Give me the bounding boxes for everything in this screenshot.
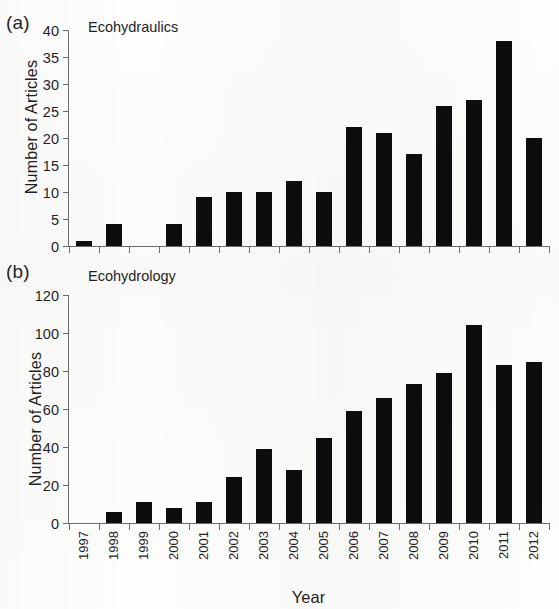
x-axis-tick-label: 2009 bbox=[437, 531, 450, 560]
x-axis-tick-label: 2011 bbox=[497, 531, 510, 559]
bar bbox=[406, 384, 423, 523]
y-axis-tick-label: 15 bbox=[43, 159, 59, 174]
x-axis-tick-label: 1999 bbox=[137, 531, 150, 560]
x-axis-tick-label: 2003 bbox=[257, 531, 270, 560]
panel-a-letter: (a) bbox=[6, 12, 30, 34]
y-axis-tick: 40 bbox=[63, 30, 69, 31]
x-axis-tick-label: 2004 bbox=[287, 531, 300, 560]
bar bbox=[196, 502, 213, 523]
y-axis-tick: 15 bbox=[63, 165, 69, 166]
y-axis-tick: 5 bbox=[63, 219, 69, 220]
bar bbox=[76, 241, 93, 246]
x-axis-tick-labels: 1997199819992000200120022003200420052006… bbox=[68, 531, 549, 591]
x-axis-tick bbox=[219, 523, 220, 530]
y-axis-tick-label: 100 bbox=[35, 327, 59, 342]
bar bbox=[166, 224, 183, 246]
bar bbox=[406, 154, 423, 246]
x-axis-tick bbox=[519, 523, 520, 530]
x-axis-tick bbox=[369, 246, 370, 253]
x-axis-tick bbox=[129, 246, 130, 253]
x-axis-tick bbox=[399, 246, 400, 253]
y-axis-tick: 60 bbox=[63, 409, 69, 410]
x-axis-tick-label: 2001 bbox=[197, 531, 210, 560]
x-axis-tick bbox=[129, 523, 130, 530]
bar bbox=[106, 512, 123, 523]
bar bbox=[316, 192, 333, 246]
x-axis-tick bbox=[459, 523, 460, 530]
bar bbox=[526, 362, 543, 524]
x-axis-tick bbox=[459, 246, 460, 253]
bar bbox=[196, 197, 213, 246]
y-axis-tick-label: 0 bbox=[51, 517, 59, 532]
x-axis-tick bbox=[399, 523, 400, 530]
bar bbox=[526, 138, 543, 246]
x-axis-tick-label: 2006 bbox=[347, 531, 360, 560]
y-axis-tick-label: 20 bbox=[43, 479, 59, 494]
x-axis-tick-label: 1997 bbox=[77, 531, 90, 560]
x-axis-tick bbox=[279, 523, 280, 530]
y-axis-tick-label: 35 bbox=[43, 51, 59, 66]
y-axis-tick-label: 20 bbox=[43, 132, 59, 147]
x-axis-tick bbox=[339, 523, 340, 530]
x-axis-tick bbox=[339, 246, 340, 253]
bar bbox=[286, 470, 303, 523]
x-axis-tick bbox=[159, 523, 160, 530]
panel-b-ecohydrology: (b) Ecohydrology Number of Articles 0204… bbox=[0, 255, 559, 609]
x-axis-tick bbox=[189, 523, 190, 530]
bar bbox=[376, 133, 393, 246]
x-axis-tick bbox=[309, 246, 310, 253]
y-axis-tick-label: 40 bbox=[43, 441, 59, 456]
y-axis-tick-label: 40 bbox=[43, 24, 59, 39]
bar bbox=[286, 181, 303, 246]
x-axis-tick bbox=[99, 246, 100, 253]
x-axis-tick bbox=[489, 523, 490, 530]
bar bbox=[106, 224, 123, 246]
x-axis-tick bbox=[249, 246, 250, 253]
y-axis-tick-label: 5 bbox=[51, 213, 59, 228]
y-axis-tick-label: 10 bbox=[43, 186, 59, 201]
y-axis-tick: 120 bbox=[63, 295, 69, 296]
y-axis-tick: 35 bbox=[63, 57, 69, 58]
y-axis-tick-label: 0 bbox=[51, 240, 59, 255]
x-axis-tick bbox=[249, 523, 250, 530]
bar bbox=[346, 127, 363, 246]
x-axis-tick bbox=[489, 246, 490, 253]
y-axis-tick: 30 bbox=[63, 84, 69, 85]
y-axis-tick: 25 bbox=[63, 111, 69, 112]
x-axis-tick bbox=[99, 523, 100, 530]
x-axis-tick bbox=[69, 523, 70, 530]
x-axis-tick-label: 2012 bbox=[527, 531, 540, 560]
figure-number-of-articles-by-year: (a) Ecohydraulics Number of Articles 051… bbox=[0, 0, 559, 609]
bar bbox=[256, 449, 273, 523]
y-axis-tick: 10 bbox=[63, 192, 69, 193]
y-axis-tick: 80 bbox=[63, 371, 69, 372]
panel-b-bar-group bbox=[69, 295, 549, 523]
panel-a-bar-group bbox=[69, 30, 549, 246]
x-axis-tick bbox=[219, 246, 220, 253]
x-axis-tick bbox=[189, 246, 190, 253]
y-axis-tick: 40 bbox=[63, 447, 69, 448]
y-axis-tick-label: 80 bbox=[43, 365, 59, 380]
x-axis-tick bbox=[519, 246, 520, 253]
x-axis-title: Year bbox=[68, 588, 549, 607]
bar bbox=[226, 477, 243, 523]
bar bbox=[466, 100, 483, 246]
bar bbox=[346, 411, 363, 523]
x-axis-tick-label: 2005 bbox=[317, 531, 330, 560]
x-axis-tick bbox=[369, 523, 370, 530]
x-axis-tick-label: 2000 bbox=[167, 531, 180, 560]
bar bbox=[166, 508, 183, 523]
bar bbox=[316, 438, 333, 524]
panel-b-plot-area: 020406080100120 bbox=[68, 295, 549, 524]
y-axis-tick: 20 bbox=[63, 485, 69, 486]
x-axis-tick bbox=[159, 246, 160, 253]
y-axis-tick-label: 25 bbox=[43, 105, 59, 120]
y-axis-tick: 20 bbox=[63, 138, 69, 139]
y-axis-tick-label: 60 bbox=[43, 403, 59, 418]
bar bbox=[256, 192, 273, 246]
x-axis-tick-label: 2008 bbox=[407, 531, 420, 560]
y-axis-tick-label: 120 bbox=[35, 289, 59, 304]
bar bbox=[136, 502, 153, 523]
bar bbox=[496, 365, 513, 523]
x-axis-tick bbox=[69, 246, 70, 253]
